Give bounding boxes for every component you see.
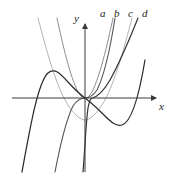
curve-label-c: c — [128, 8, 133, 19]
y-axis-label: y — [74, 13, 79, 24]
cubic-s-curve-path — [22, 60, 145, 172]
curve-label-d: d — [142, 8, 148, 19]
curve-label-b: b — [114, 8, 120, 19]
x-axis-label: x — [159, 101, 164, 112]
figure-container: y x a b c d — [0, 0, 172, 187]
curve-label-a: a — [100, 8, 106, 19]
curves-plot — [0, 0, 172, 187]
